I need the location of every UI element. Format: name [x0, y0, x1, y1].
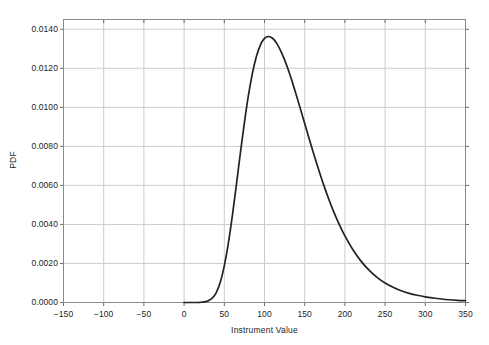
x-tick-label: 200 — [325, 309, 365, 319]
x-tick-label: −150 — [44, 309, 84, 319]
y-tick-label: 0.0020 — [14, 258, 58, 268]
pdf-curve — [184, 36, 465, 302]
y-tick-label: 0.0080 — [14, 141, 58, 151]
gridlines — [64, 20, 466, 303]
y-tick-label: 0.0000 — [14, 297, 58, 307]
y-tick-label: 0.0100 — [14, 102, 58, 112]
x-tick-label: −50 — [124, 309, 164, 319]
x-tick-label: 250 — [365, 309, 405, 319]
chart-figure: PDF Instrument Value 0.00000.00200.00400… — [0, 0, 489, 345]
plot-canvas — [0, 0, 489, 345]
x-tick-label: 300 — [405, 309, 445, 319]
x-tick-label: 50 — [204, 309, 244, 319]
x-tick-label: −100 — [84, 309, 124, 319]
y-tick-label: 0.0120 — [14, 63, 58, 73]
x-tick-label: 0 — [164, 309, 204, 319]
x-axis-label: Instrument Value — [185, 325, 345, 335]
y-tick-label: 0.0140 — [14, 24, 58, 34]
y-tick-label: 0.0040 — [14, 219, 58, 229]
x-tick-label: 100 — [245, 309, 285, 319]
x-tick-label: 150 — [285, 309, 325, 319]
x-tick-label: 350 — [446, 309, 486, 319]
y-tick-label: 0.0060 — [14, 180, 58, 190]
